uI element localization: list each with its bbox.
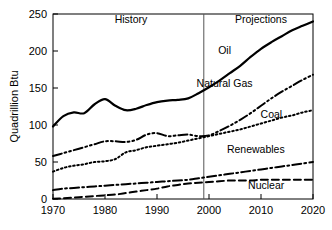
series-label-nuclear: Nuclear [248, 179, 285, 191]
annotation-history: History [115, 13, 148, 25]
series-label-renewables: Renewables [227, 143, 285, 155]
x-tick-label: 1990 [145, 204, 169, 216]
y-tick-label: 50 [35, 156, 47, 168]
series-label-natural-gas: Natural Gas [197, 77, 253, 89]
x-tick-label: 1980 [93, 204, 117, 216]
y-tick-label: 200 [29, 45, 47, 57]
series-label-oil: Oil [218, 44, 231, 56]
y-axis-title: Quadrillion Btu [8, 70, 20, 142]
label-layer: OilNatural GasCoalRenewablesNuclearHisto… [115, 13, 287, 191]
y-tick-label: 250 [29, 8, 47, 20]
x-tick-label: 1970 [41, 204, 65, 216]
series-label-coal: Coal [261, 108, 283, 120]
y-tick-label: 100 [29, 119, 47, 131]
energy-consumption-chart: 050100150200250197019801990200020102020Q… [0, 0, 332, 230]
x-tick-label: 2020 [301, 204, 325, 216]
chart-svg: 050100150200250197019801990200020102020Q… [0, 0, 332, 230]
x-tick-label: 2000 [197, 204, 221, 216]
annotation-projections: Projections [235, 13, 287, 25]
y-tick-label: 150 [29, 82, 47, 94]
x-tick-label: 2010 [249, 204, 273, 216]
